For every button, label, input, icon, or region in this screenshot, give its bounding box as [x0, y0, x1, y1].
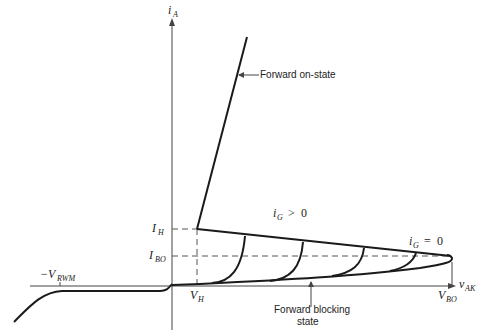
svg-text:I: I	[151, 221, 157, 235]
svg-text:BO: BO	[446, 295, 457, 304]
switching-curve-2	[270, 242, 303, 281]
svg-text:0: 0	[301, 206, 307, 220]
svg-text:G: G	[413, 241, 419, 250]
svg-text:H: H	[157, 228, 165, 237]
vbo-label: V BO	[438, 288, 457, 304]
vh-label: V H	[190, 288, 205, 304]
switching-curve-3	[332, 248, 364, 276]
svg-text:i: i	[273, 206, 276, 220]
svg-text:>: >	[288, 206, 295, 220]
svg-text:BO: BO	[155, 255, 166, 264]
ig-zero-label: i G = 0	[409, 234, 443, 250]
forward-blocking-curve	[172, 255, 452, 285]
svg-text:−V: −V	[40, 267, 57, 281]
svg-text:AK: AK	[464, 284, 476, 293]
svg-text:=: =	[424, 234, 431, 248]
svg-text:H: H	[197, 295, 205, 304]
svg-text:G: G	[277, 213, 283, 222]
y-axis-label: i A	[168, 3, 178, 19]
ibo-label: I BO	[148, 248, 166, 264]
switching-curve-1	[212, 236, 245, 283]
x-axis-label: v AK	[459, 277, 476, 293]
vrwm-label: −V RWM	[40, 267, 76, 283]
ig-positive-label: i G > 0	[273, 206, 307, 222]
ih-label: I H	[151, 221, 165, 237]
thyristor-characteristic-diagram: i A v AK Forward on-state Forward blocki…	[0, 0, 478, 335]
reverse-blocking-curve	[14, 284, 172, 322]
svg-text:i: i	[409, 234, 412, 248]
svg-text:I: I	[148, 248, 154, 262]
svg-text:i: i	[168, 3, 171, 17]
svg-text:RWM: RWM	[56, 274, 76, 283]
forward-blocking-label-line1: Forward blocking	[274, 304, 350, 315]
svg-text:A: A	[172, 10, 178, 19]
forward-on-state-curve	[197, 37, 247, 229]
forward-blocking-label-line2: state	[297, 316, 319, 327]
svg-text:0: 0	[437, 234, 443, 248]
forward-on-state-label: Forward on-state	[260, 69, 336, 80]
